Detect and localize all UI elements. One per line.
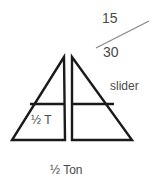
label-upper-number: 15 bbox=[102, 11, 118, 25]
label-half-ton-inner: ½ T bbox=[31, 114, 51, 126]
left-triangle-group bbox=[12, 57, 65, 140]
label-slider: slider bbox=[110, 80, 139, 92]
right-triangle-group bbox=[72, 57, 132, 140]
figure-canvas: 15 30 slider ½ T ½ Ton bbox=[0, 0, 158, 186]
right-triangle-outline bbox=[72, 57, 132, 140]
label-lower-number: 30 bbox=[103, 45, 119, 59]
label-caption-half-ton: ½ Ton bbox=[50, 164, 82, 176]
geometry-diagram bbox=[0, 0, 158, 186]
left-triangle-outline bbox=[12, 57, 65, 140]
